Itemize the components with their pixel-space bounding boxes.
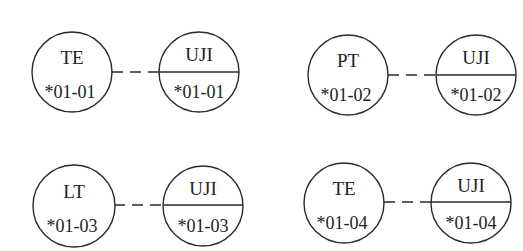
pair-1: TE *01-01 UJI *01-01 [32,32,239,112]
right-node: UJI *01-04 [431,163,511,243]
node-code: *01-03 [178,216,229,236]
pair-3: LT *01-03 UJI *01-03 [33,165,243,247]
left-node: TE *01-04 [304,163,384,243]
node-code: *01-04 [446,213,497,233]
left-node: LT *01-03 [33,165,115,247]
pair-4: TE *01-04 UJI *01-04 [304,163,511,243]
node-code: *01-01 [174,82,225,102]
node-code: *01-04 [317,213,368,233]
node-label: UJI [189,178,216,199]
right-node: UJI *01-03 [163,166,243,246]
node-code: *01-03 [47,216,98,236]
node-code: *01-02 [321,85,372,105]
node-code: *01-02 [451,85,502,105]
right-node: UJI *01-01 [159,32,239,112]
left-node: TE *01-01 [32,32,112,112]
node-label: LT [63,181,85,202]
node-label: UJI [462,47,489,68]
diagram-canvas: TE *01-01 UJI *01-01 PT *01-02 UJI *01-0… [0,0,523,251]
node-label: UJI [185,44,212,65]
right-node: UJI *01-02 [436,35,516,115]
left-node: PT *01-02 [308,35,388,115]
node-label: PT [337,50,360,71]
node-label: TE [332,178,355,199]
node-label: UJI [457,175,484,196]
pair-2: PT *01-02 UJI *01-02 [308,35,516,115]
node-label: TE [60,47,83,68]
node-code: *01-01 [45,82,96,102]
